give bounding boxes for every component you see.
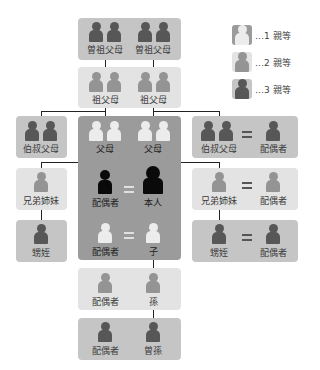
legend-icon-degree2 (232, 52, 252, 72)
person-icon (146, 223, 160, 243)
label-great-grandparents-left: 曽祖父母 (87, 45, 123, 55)
person-icon (107, 72, 121, 92)
person-icon (43, 121, 57, 141)
person-icon (98, 223, 112, 243)
label-spouse: 配偶者 (92, 198, 119, 208)
label-uncle-aunt-spouse: 配偶者 (260, 144, 287, 154)
legend-label-degree1: …1 親等 (255, 31, 291, 41)
label-great-grandchild-spouse: 配偶者 (92, 346, 119, 356)
connector-line (153, 60, 154, 67)
label-siblings-left: 兄弟姉妹 (23, 196, 59, 206)
connector-line (153, 111, 220, 112)
person-icon (34, 224, 48, 244)
person-icon (146, 322, 160, 342)
label-grandparents-left: 祖父母 (92, 95, 119, 105)
label-parents-left: 父母 (96, 144, 114, 154)
person-icon (266, 224, 280, 244)
legend-label-degree2: …2 親等 (255, 58, 291, 68)
equals-icon (242, 182, 252, 189)
label-grandparents-right: 祖父母 (140, 95, 167, 105)
person-icon (25, 121, 39, 141)
legend-label-degree3: …3 親等 (255, 85, 291, 95)
person-icon (98, 273, 112, 293)
legend-icon-degree1 (232, 25, 252, 45)
label-great-grandchild: 曽孫 (144, 346, 162, 356)
label-parents-right: 父母 (144, 144, 162, 154)
label-child-spouse: 配偶者 (92, 247, 119, 257)
label-self: 本人 (144, 198, 162, 208)
equals-icon (242, 234, 252, 241)
person-icon (212, 224, 226, 244)
person-icon (34, 172, 48, 192)
person-icon (107, 22, 121, 42)
person-icon (89, 121, 103, 141)
label-nephews-spouse: 配偶者 (260, 248, 287, 258)
label-child: 子 (149, 247, 158, 257)
label-nephews-right: 甥姪 (210, 248, 228, 258)
legend-icon-degree3 (232, 79, 252, 99)
person-icon (89, 22, 103, 42)
person-icon (156, 121, 170, 141)
person-icon (156, 22, 170, 42)
person-icon (201, 121, 215, 141)
person-icon (146, 273, 160, 293)
person-icon (98, 322, 112, 342)
spouse-person-icon (98, 170, 112, 194)
label-great-grandparents-right: 曽祖父母 (135, 45, 171, 55)
equals-icon (242, 131, 252, 138)
equals-icon (124, 232, 134, 239)
equals-icon (124, 186, 134, 193)
person-icon (138, 22, 152, 42)
label-siblings-spouse: 配偶者 (260, 196, 287, 206)
person-icon (266, 121, 280, 141)
label-uncle-aunt-right: 伯叔父母 (201, 144, 237, 154)
person-icon (89, 72, 103, 92)
label-siblings-right: 兄弟姉妹 (201, 196, 237, 206)
self-person-icon (143, 166, 163, 194)
label-nephews-left: 甥姪 (32, 248, 50, 258)
person-icon (107, 121, 121, 141)
person-icon (138, 72, 152, 92)
person-icon (156, 72, 170, 92)
person-icon (266, 172, 280, 192)
person-icon (212, 172, 226, 192)
label-grandchild: 孫 (149, 297, 158, 307)
label-uncle-aunt-left: 伯叔父母 (23, 144, 59, 154)
person-icon (219, 121, 233, 141)
connector-line (41, 111, 106, 112)
label-grandchild-spouse: 配偶者 (92, 297, 119, 307)
connector-line (105, 60, 106, 67)
person-icon (138, 121, 152, 141)
